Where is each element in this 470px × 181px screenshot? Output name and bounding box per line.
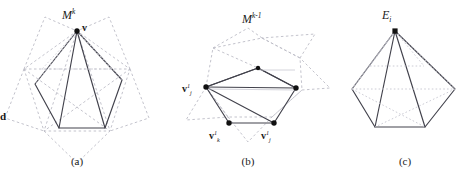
panel-b-vertex-right: [293, 85, 298, 90]
panel-b-vertex-label-bottom-left: v1k: [209, 130, 220, 144]
panel-b-vertex-label-bottom-right: v1j: [261, 130, 271, 144]
panel-b-vertex-top: [256, 66, 260, 70]
panel-b-vbl-sup: 1: [214, 129, 217, 136]
panel-c-interior-dotted: [352, 31, 455, 127]
panel-b-vl-sup: 1: [187, 82, 190, 89]
panel-b-vbr-sub: j: [269, 136, 271, 143]
panel-b-mesh-sup: k-1: [252, 11, 262, 20]
panel-c-edge-label: Ei: [382, 9, 391, 24]
panel-b-mesh-label: Mk-1: [242, 12, 262, 25]
panel-b-group: [186, 28, 330, 142]
panel-a-apex-vertex: [74, 28, 79, 33]
panel-b-mesh-base: M: [242, 12, 252, 26]
panel-b-vertex-left: [203, 84, 208, 89]
panel-a-mesh-base: M: [62, 8, 72, 22]
panel-c-edge-sub: i: [389, 15, 391, 24]
panel-b-caption: (b): [226, 155, 270, 167]
panel-c-group: [352, 28, 455, 127]
panel-b-vertex-bottom-left: [226, 120, 231, 125]
panel-b-vbr-sup: 1: [266, 129, 269, 136]
panel-c-caption: (c): [383, 155, 427, 167]
panel-a-mesh-sup: k: [72, 7, 75, 16]
panel-c-apex-vertex: [392, 28, 397, 33]
panel-a-side-label: d: [0, 111, 6, 122]
panel-a-apex-label: v: [82, 23, 87, 33]
panel-a-interior-dotted: [35, 31, 122, 84]
panel-b-vertex-bottom-right: [271, 120, 276, 125]
panel-b-vbl-sub: k: [217, 136, 220, 143]
figure-root: Mk v d (a) Mk-1 v1j v1k v1j (b) Ei (c): [0, 0, 470, 181]
panel-c-solid-mesh: [352, 31, 455, 127]
panel-a-group: [5, 17, 149, 163]
panel-b-vl-sub: j: [190, 89, 192, 96]
panel-b-vertex-label-left: v1j: [182, 83, 192, 97]
panel-a-mesh-label: Mk: [62, 8, 75, 21]
figure-drawing: [0, 0, 470, 181]
panel-a-solid-mesh: [35, 31, 122, 128]
panel-b-solid-mesh: [206, 68, 296, 123]
panel-a-caption: (a): [55, 155, 99, 167]
panel-a-dashed-star: [5, 17, 149, 163]
